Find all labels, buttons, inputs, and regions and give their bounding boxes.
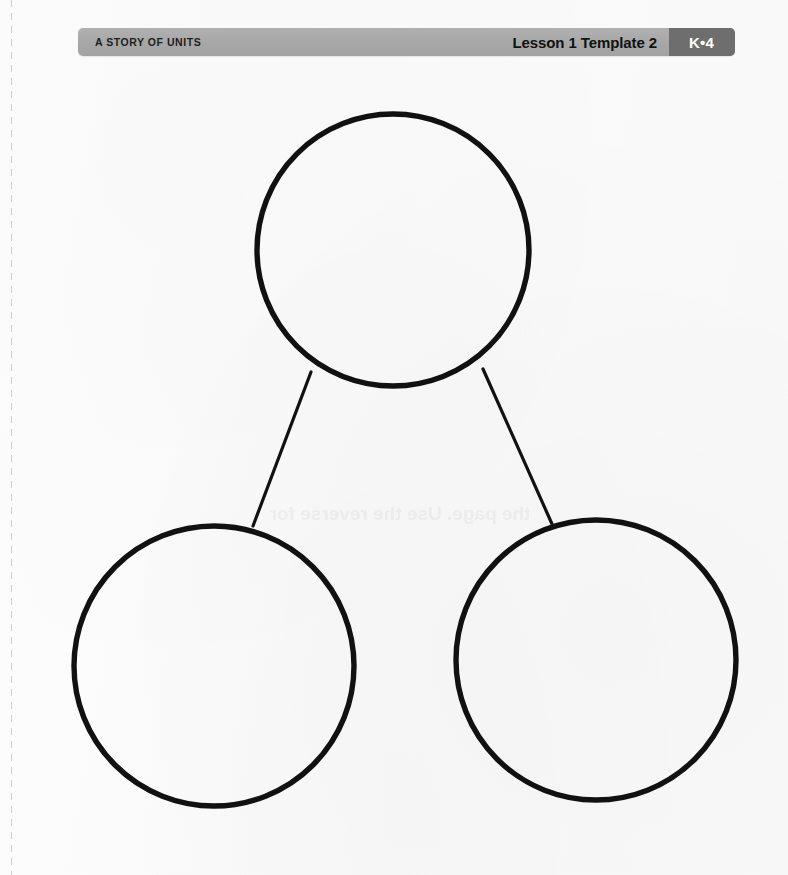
connector-right-line bbox=[483, 369, 552, 524]
connector-left-line bbox=[253, 372, 311, 526]
whole-circle[interactable] bbox=[257, 114, 529, 386]
worksheet-page: A STORY OF UNITS Lesson 1 Template 2 K•4… bbox=[0, 0, 788, 875]
part-circle-right[interactable] bbox=[456, 520, 736, 800]
part-circle-left[interactable] bbox=[74, 526, 354, 806]
number-bond-diagram bbox=[0, 0, 788, 875]
